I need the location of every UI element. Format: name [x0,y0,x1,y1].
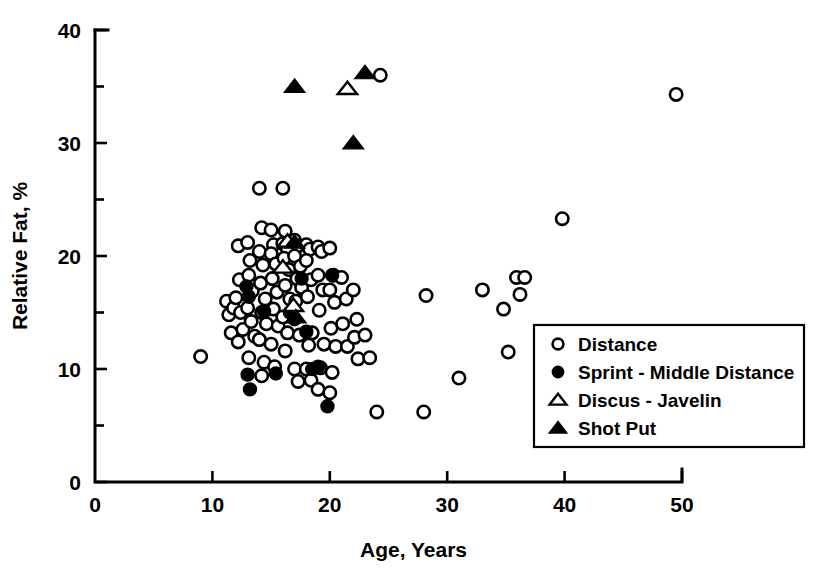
point-open-circle [351,313,363,325]
y-tick-label: 10 [58,358,81,381]
point-open-circle [241,236,253,248]
point-filled-circle [321,400,334,413]
point-open-circle [326,366,338,378]
point-open-circle [266,272,278,284]
point-open-circle [324,284,336,296]
point-open-circle [260,318,272,330]
point-filled-circle [243,383,256,396]
y-tick-label: 40 [58,19,81,42]
point-filled-circle [242,290,255,303]
point-open-circle [257,259,269,271]
y-tick-label: 0 [69,471,81,494]
point-open-triangle [338,82,357,94]
point-filled-circle [295,272,308,285]
x-axis-title: Age, Years [360,538,467,561]
x-tick-label: 50 [670,493,693,516]
legend: DistanceSprint - Middle DistanceDiscus -… [534,325,804,447]
point-open-circle [265,224,277,236]
point-filled-circle [269,367,282,380]
legend-label: Discus - Javelin [578,390,722,411]
point-open-circle [230,292,242,304]
point-open-circle [279,279,291,291]
point-filled-triangle [355,65,376,79]
point-open-circle [347,284,359,296]
x-tick-label: 0 [89,493,101,516]
point-open-circle [301,290,313,302]
point-open-circle [337,318,349,330]
point-open-circle [265,338,277,350]
point-open-circle [359,329,371,341]
point-open-circle [420,289,432,301]
point-open-circle [253,245,265,257]
legend-label: Distance [578,334,657,355]
point-filled-triangle [284,79,305,93]
point-open-circle [476,284,488,296]
legend-label: Sprint - Middle Distance [578,362,794,383]
point-open-circle [502,346,514,358]
point-open-circle [281,327,293,339]
legend-box [534,325,804,447]
y-tick-label: 20 [58,245,81,268]
point-filled-circle [326,269,339,282]
point-open-circle [277,182,289,194]
point-open-circle [300,254,312,266]
point-open-circle [371,406,383,418]
point-open-circle [497,303,509,315]
point-open-circle [374,69,386,81]
point-open-circle [364,352,376,364]
y-axis-title: Relative Fat, % [8,182,31,331]
point-open-circle [313,304,325,316]
point-filled-circle [241,368,254,381]
point-open-circle-legend [553,339,564,350]
point-open-circle [302,339,314,351]
point-open-circle [318,338,330,350]
point-open-circle [292,375,304,387]
point-open-circle [253,182,265,194]
legend-label: Shot Put [578,418,657,439]
x-tick-label: 30 [436,493,459,516]
point-open-circle [518,271,530,283]
point-filled-circle [300,325,313,338]
point-filled-triangle [343,135,364,149]
point-open-circle [194,350,206,362]
point-open-circle [670,88,682,100]
point-open-circle [514,288,526,300]
point-filled-circle [257,305,270,318]
point-open-circle [245,315,257,327]
x-tick-label: 10 [201,493,224,516]
point-filled-circle-legend [552,366,564,378]
x-tick-label: 40 [553,493,576,516]
point-open-circle [556,213,568,225]
x-tick-label: 20 [318,493,341,516]
plot-canvas: 01020304001020304050Age, YearsRelative F… [0,0,815,572]
legend-item-sprint-middle-distance[interactable]: Sprint - Middle Distance [552,362,794,383]
point-filled-circle [311,360,324,373]
y-tick-label: 30 [58,132,81,155]
point-open-circle [243,352,255,364]
scatter-chart: 01020304001020304050Age, YearsRelative F… [0,0,815,572]
point-open-circle [324,242,336,254]
point-open-circle [453,372,465,384]
point-open-circle [312,269,324,281]
point-open-circle [243,269,255,281]
point-open-circle [324,387,336,399]
point-open-circle [256,370,268,382]
point-open-circle [418,406,430,418]
point-open-circle [232,336,244,348]
point-open-circle [279,345,291,357]
